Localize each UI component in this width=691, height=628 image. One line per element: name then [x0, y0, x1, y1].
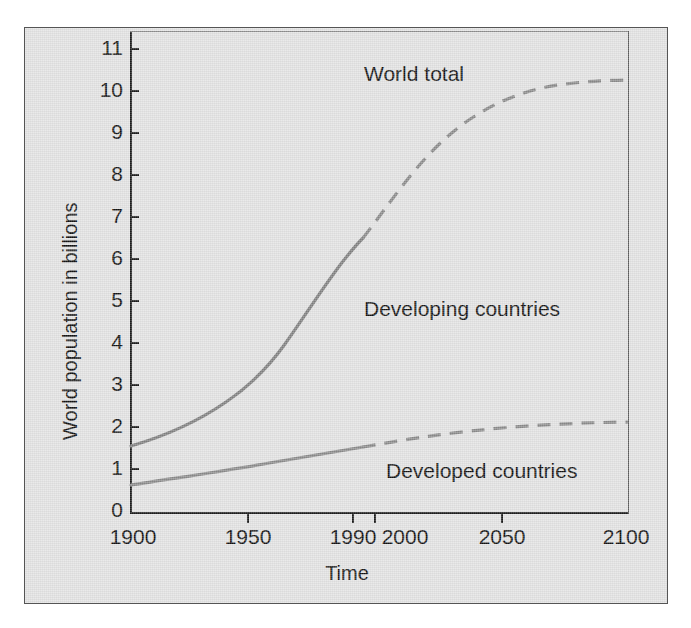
x-tick-mark — [501, 512, 503, 523]
y-tick-label: 6 — [83, 247, 123, 268]
y-tick-label: 10 — [83, 79, 123, 100]
y-tick-label: 8 — [83, 163, 123, 184]
x-tick-mark — [352, 512, 354, 523]
chart-panel: 11 10 9 8 7 6 5 4 3 2 1 0 1900 1950 1990… — [24, 27, 668, 604]
world-total-projection-path — [363, 80, 628, 238]
y-tick-label: 9 — [83, 121, 123, 142]
x-tick-label: 2050 — [479, 526, 526, 547]
world-total-historical-path — [131, 238, 363, 446]
series-label-developing: Developing countries — [364, 298, 560, 319]
y-tick-label: 1 — [83, 457, 123, 478]
x-axis-title: Time — [25, 562, 669, 585]
y-tick-label: 11 — [83, 37, 123, 58]
series-label-developed: Developed countries — [386, 460, 577, 481]
y-tick-label: 0 — [83, 499, 123, 520]
y-tick-mark — [130, 384, 139, 386]
y-tick-mark — [130, 426, 139, 428]
series-label-world-total: World total — [364, 63, 464, 84]
y-tick-mark — [130, 48, 139, 50]
y-tick-mark — [130, 174, 139, 176]
y-axis-title: World population in billions — [59, 202, 82, 440]
developed-historical-path — [131, 447, 363, 485]
y-tick-mark — [130, 468, 139, 470]
developed-projection-path — [363, 422, 628, 447]
y-tick-label: 3 — [83, 373, 123, 394]
y-tick-label: 5 — [83, 289, 123, 310]
x-tick-label: 1900 — [110, 526, 157, 547]
x-tick-label: 1990 — [330, 526, 377, 547]
x-tick-label: 2100 — [603, 526, 650, 547]
x-tick-mark — [374, 512, 376, 523]
figure-root: 11 10 9 8 7 6 5 4 3 2 1 0 1900 1950 1990… — [0, 0, 691, 628]
y-tick-mark — [130, 258, 139, 260]
y-tick-mark — [130, 300, 139, 302]
y-tick-label: 4 — [83, 331, 123, 352]
y-tick-label: 2 — [83, 415, 123, 436]
x-tick-label: 2000 — [382, 526, 429, 547]
x-tick-mark — [247, 512, 249, 523]
y-tick-mark — [130, 132, 139, 134]
x-tick-label: 1950 — [225, 526, 272, 547]
y-tick-mark — [130, 342, 139, 344]
y-tick-mark — [130, 216, 139, 218]
y-tick-mark — [130, 90, 139, 92]
y-tick-label: 7 — [83, 205, 123, 226]
